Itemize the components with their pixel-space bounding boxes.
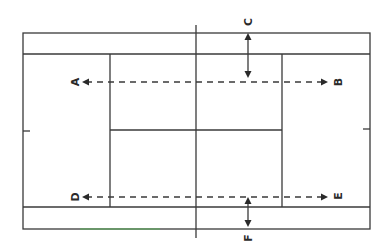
label-a: A [69,77,82,86]
arrowhead-f-top-icon [245,197,252,204]
label-d: D [69,192,82,201]
label-b: B [332,78,345,86]
label-f: F [242,234,255,242]
arrowhead-d-icon [82,194,89,201]
arrowhead-c-top-icon [245,33,252,40]
arrowhead-b-icon [321,79,328,86]
arrowhead-c-bottom-icon [245,71,252,78]
arrowhead-e-icon [321,194,328,201]
arrowhead-a-icon [82,79,89,86]
label-c: C [242,18,255,26]
label-e: E [332,192,345,200]
tennis-court-diagram: A B C D E F [0,0,390,252]
arrowhead-f-bottom-icon [245,220,252,227]
